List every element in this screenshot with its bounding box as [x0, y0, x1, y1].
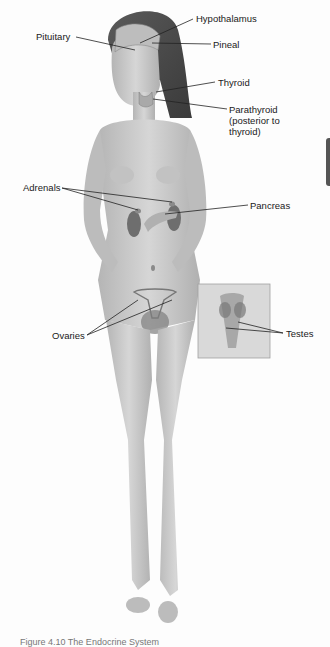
label-thyroid: Thyroid: [218, 77, 250, 88]
page-edge-tab: [326, 138, 330, 186]
right-leg: [156, 320, 195, 596]
navel: [151, 265, 155, 271]
label-parathyroid: Parathyroid (posterior to thyroid): [229, 104, 289, 137]
breast-right: [156, 166, 180, 184]
left-foot: [126, 597, 150, 613]
label-pancreas: Pancreas: [250, 200, 290, 211]
breast-left: [110, 166, 134, 184]
kidney-left: [127, 211, 141, 237]
figure-caption: Figure 4.10 The Endocrine System: [20, 637, 159, 647]
right-foot: [158, 601, 178, 623]
male-inset: [198, 284, 270, 358]
label-adrenals: Adrenals: [23, 182, 61, 193]
label-pituitary: Pituitary: [36, 31, 70, 42]
label-ovaries: Ovaries: [52, 330, 85, 341]
label-hypothalamus: Hypothalamus: [196, 13, 257, 24]
label-pineal: Pineal: [213, 39, 239, 50]
left-leg: [106, 320, 152, 590]
label-testes: Testes: [286, 328, 313, 339]
adrenal-right: [169, 202, 175, 207]
